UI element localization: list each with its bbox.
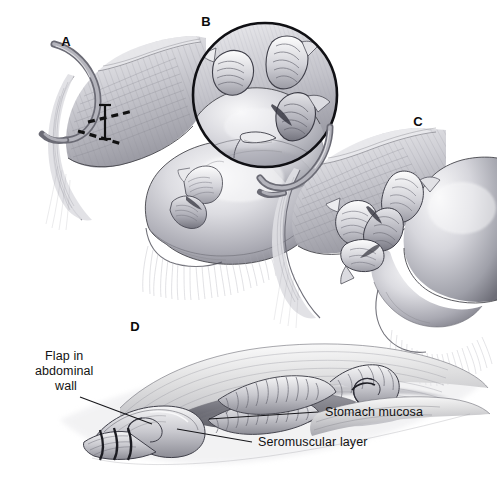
panel-letter-b: B	[201, 14, 210, 29]
panel-letter-c: C	[413, 114, 423, 129]
surgical-illustration-figure: A	[0, 0, 497, 477]
annotation-label-stomach-mucosa: Stomach mucosa	[325, 405, 423, 419]
panel-letter-d: D	[130, 319, 139, 334]
annotation-label-seromuscular-layer: Seromuscular layer	[258, 435, 367, 449]
panel-letter-a: A	[61, 34, 71, 49]
